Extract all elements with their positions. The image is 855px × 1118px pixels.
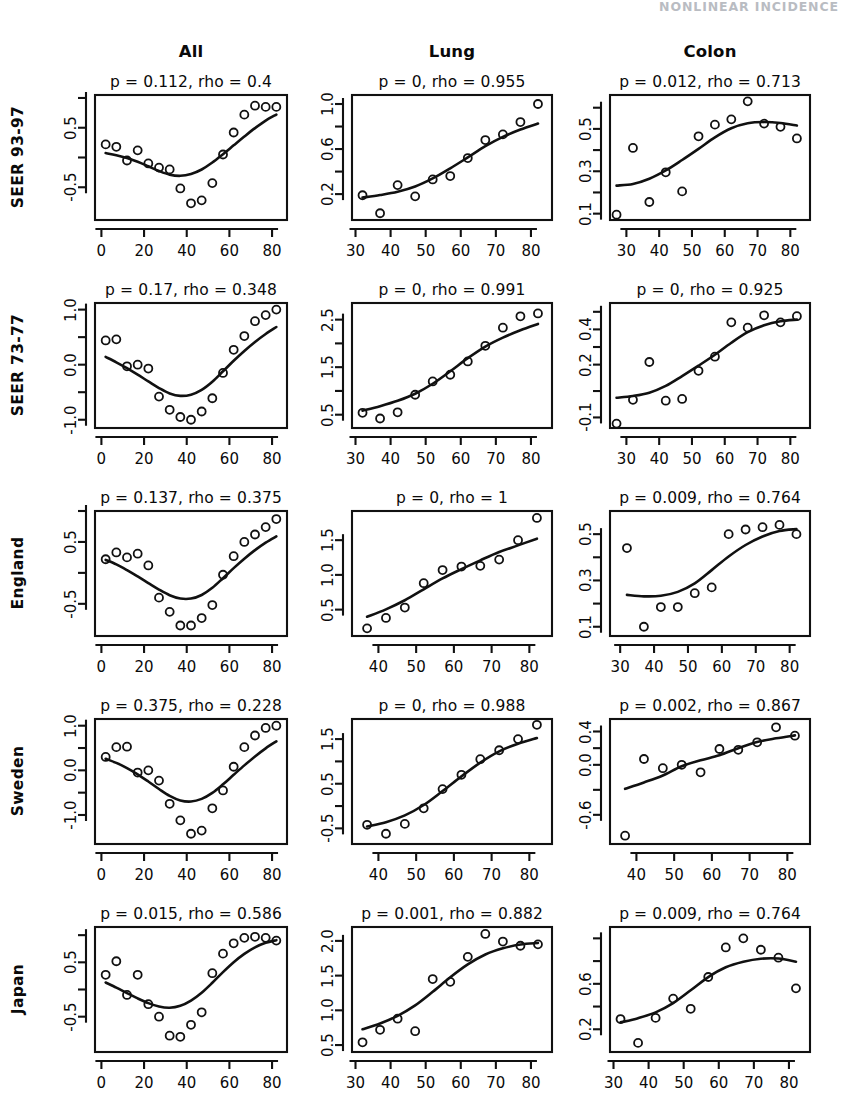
data-point: [272, 515, 280, 523]
data-point: [251, 732, 259, 740]
data-points: [359, 930, 542, 1046]
fitted-curve: [627, 529, 796, 596]
data-point: [208, 179, 216, 187]
data-point: [382, 614, 390, 622]
data-point: [759, 523, 767, 531]
plot-frame: [610, 95, 810, 220]
data-point: [739, 934, 747, 942]
data-point: [240, 743, 248, 751]
data-point: [495, 556, 503, 564]
plot-frame: [610, 927, 810, 1052]
data-point: [420, 579, 428, 587]
y-tick-label: 0.1: [577, 604, 595, 650]
data-point: [262, 103, 270, 111]
data-point: [176, 413, 184, 421]
data-point: [429, 975, 437, 983]
y-tick-label: 0.5: [62, 105, 80, 151]
data-point: [691, 589, 699, 597]
fitted-curve: [367, 539, 537, 617]
data-point: [401, 604, 409, 612]
data-point: [376, 414, 384, 422]
data-point: [775, 521, 783, 529]
data-point: [363, 624, 371, 632]
data-point: [514, 536, 522, 544]
data-point: [727, 318, 735, 326]
data-point: [744, 324, 752, 332]
y-tick-label: 0.3: [577, 148, 595, 194]
data-points: [613, 311, 801, 427]
data-point: [446, 172, 454, 180]
data-point: [687, 1005, 695, 1013]
data-point: [112, 743, 120, 751]
data-point: [144, 561, 152, 569]
data-point: [678, 187, 686, 195]
y-tick-label: 0.6: [319, 126, 337, 172]
data-point: [112, 143, 120, 151]
y-tick-label: 1.0: [62, 287, 80, 333]
data-point: [240, 332, 248, 340]
data-point: [166, 800, 174, 808]
fitted-curve: [363, 124, 538, 198]
data-point: [198, 614, 206, 622]
x-tick-label: 20: [122, 1074, 166, 1092]
data-point: [208, 969, 216, 977]
data-point: [166, 406, 174, 414]
data-point: [272, 722, 280, 730]
y-tick-label: 0.5: [62, 939, 80, 985]
y-tick-label: -0.6: [577, 792, 595, 838]
data-point: [155, 1013, 163, 1021]
y-tick-label: 0.5: [577, 106, 595, 152]
data-point: [134, 146, 142, 154]
data-point: [155, 594, 163, 602]
y-tick-label: 0.6: [577, 961, 595, 1007]
data-point: [240, 538, 248, 546]
data-points: [623, 521, 800, 631]
plot-frame: [95, 511, 287, 636]
plot-frame: [352, 95, 552, 220]
data-point: [499, 938, 507, 946]
data-point: [219, 950, 227, 958]
data-point: [534, 309, 542, 317]
data-point: [240, 111, 248, 119]
data-point: [262, 934, 270, 942]
data-point: [176, 1033, 184, 1041]
data-point: [176, 816, 184, 824]
data-point: [251, 102, 259, 110]
data-point: [394, 181, 402, 189]
data-points: [617, 934, 800, 1047]
data-point: [134, 550, 142, 558]
data-point: [659, 764, 667, 772]
y-tick-label: 0.5: [577, 511, 595, 557]
data-point: [102, 140, 110, 148]
data-point: [760, 311, 768, 319]
data-point: [514, 735, 522, 743]
data-point: [166, 1032, 174, 1040]
data-point: [657, 603, 665, 611]
data-point: [166, 608, 174, 616]
y-tick-label: 0.4: [577, 306, 595, 352]
y-tick-label: 0.1: [577, 191, 595, 237]
running-header: NONLINEAR INCIDENCE: [659, 0, 839, 11]
data-point: [394, 408, 402, 416]
data-point: [715, 745, 723, 753]
data-points: [359, 100, 542, 217]
data-point: [230, 763, 238, 771]
data-points: [613, 97, 801, 218]
data-point: [134, 361, 142, 369]
data-point: [155, 393, 163, 401]
data-point: [533, 721, 541, 729]
row-label-sweden: Sweden: [9, 706, 27, 856]
data-points: [102, 722, 281, 838]
data-point: [208, 601, 216, 609]
y-tick-label: 2.5: [319, 297, 337, 343]
data-point: [187, 830, 195, 838]
data-point: [757, 946, 765, 954]
data-point: [198, 196, 206, 204]
x-tick-label: 0: [79, 1074, 123, 1092]
data-point: [464, 953, 472, 961]
data-point: [645, 198, 653, 206]
y-tick-label: -0.5: [62, 994, 80, 1040]
y-tick-label: 0.5: [319, 392, 337, 438]
data-point: [411, 192, 419, 200]
data-point: [230, 939, 238, 947]
